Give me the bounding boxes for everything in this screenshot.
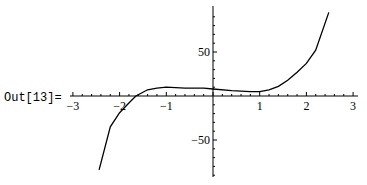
- x-tick-label: 1: [257, 99, 263, 113]
- plot-curve: [99, 12, 329, 170]
- x-tick-label: 2: [303, 99, 309, 113]
- x-tick-label: −1: [160, 99, 173, 113]
- axes: [70, 6, 358, 177]
- x-tick-label: 3: [350, 99, 356, 113]
- x-tick-label: −2: [113, 99, 126, 113]
- x-tick-label: −3: [67, 99, 80, 113]
- function-plot: −3−2−112350−50: [0, 0, 367, 185]
- y-tick-label: 50: [198, 45, 210, 59]
- y-tick-label: −50: [191, 133, 210, 147]
